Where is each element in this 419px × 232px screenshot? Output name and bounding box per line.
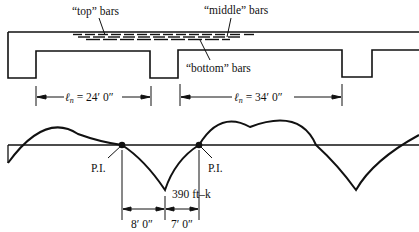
inflection-points: P.I. P.I. 390 ft–k	[91, 142, 223, 200]
middle-bars-label: “middle” bars	[204, 4, 269, 16]
reinforcing-bars	[73, 35, 254, 40]
span-1-length: ℓn = 24′ 0″	[65, 91, 114, 105]
moment-diagram	[8, 121, 419, 190]
dim-7ft: 7′ 0″	[171, 218, 193, 230]
top-bars-label: “top” bars	[72, 5, 119, 18]
dim-8ft: 8′ 0″	[131, 218, 153, 230]
span-2-length: ℓn = 34′ 0″	[234, 91, 283, 105]
bar-labels: “top” bars “middle” bars “bottom” bars	[72, 4, 269, 74]
moment-curve	[8, 121, 419, 190]
pi-left-label: P.I.	[91, 162, 106, 174]
bottom-bars-label: “bottom” bars	[186, 62, 251, 74]
pi-right-label: P.I.	[208, 162, 223, 174]
negative-moment-value: 390 ft–k	[172, 188, 211, 200]
beam-moment-diagram: “top” bars “middle” bars “bottom” bars ℓ…	[0, 0, 419, 232]
